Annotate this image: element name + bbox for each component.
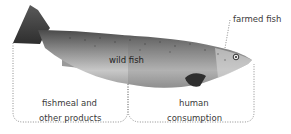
fishmeal-label-line1: fishmeal and [42,99,97,108]
human-consumption-label-line2: consumption [167,114,222,123]
farmed-fish-pointer [225,20,230,48]
human-consumption-label-line1: human [179,99,209,108]
wild-fish-label: wild fish [109,56,144,65]
fish-diagram: farmed fish wild fish fishmeal and other… [0,0,291,134]
farmed-fish-label: farmed fish [233,15,281,24]
fishmeal-label-line2: other products [39,114,101,123]
